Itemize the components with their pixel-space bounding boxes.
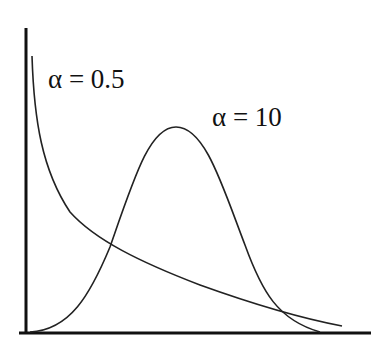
annotation-alpha-0-5: α = 0.5 — [48, 66, 125, 93]
chart-canvas — [0, 0, 384, 350]
curve-alpha-10 — [30, 127, 320, 332]
curve-alpha-0-5 — [32, 56, 342, 326]
annotation-alpha-10: α = 10 — [212, 104, 282, 131]
